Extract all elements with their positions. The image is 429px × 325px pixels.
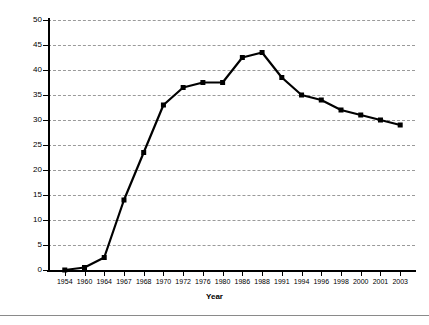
x-axis-tick-mark: [203, 271, 204, 276]
data-point-marker: [240, 55, 245, 60]
y-axis-tick-mark: [43, 70, 49, 71]
y-axis-tick-label: 50: [20, 16, 42, 24]
y-axis-tick-label: 10: [20, 216, 42, 224]
y-axis-tick-mark: [43, 270, 49, 271]
data-series-line: [48, 20, 415, 270]
y-axis-tick-label: 5: [20, 241, 42, 249]
figure-bottom-rule: [0, 315, 429, 316]
x-axis-tick-mark: [183, 271, 184, 276]
x-axis-tick-mark: [144, 271, 145, 276]
data-point-marker: [181, 85, 186, 90]
y-axis-tick-mark: [43, 220, 49, 221]
data-point-marker: [121, 198, 126, 203]
y-axis-tick-label: 40: [20, 66, 42, 74]
y-axis-tick-label: 25: [20, 141, 42, 149]
x-axis-tick-mark: [282, 271, 283, 276]
x-axis-tick-mark: [163, 271, 164, 276]
data-point-marker: [220, 80, 225, 85]
data-point-marker: [339, 108, 344, 113]
y-axis-tick-label: 30: [20, 116, 42, 124]
data-point-marker: [299, 93, 304, 98]
y-axis-tick-mark: [43, 45, 49, 46]
y-axis-tick-mark: [43, 145, 49, 146]
y-axis-tick-mark: [43, 95, 49, 96]
x-axis-tick-mark: [262, 271, 263, 276]
x-axis-tick-mark: [124, 271, 125, 276]
x-axis-tick-mark: [223, 271, 224, 276]
plot-area: [48, 20, 415, 270]
data-point-marker: [200, 80, 205, 85]
y-axis-tick-mark: [43, 245, 49, 246]
y-axis-tick-mark: [43, 120, 49, 121]
y-axis-tick-mark: [43, 20, 49, 21]
x-axis-tick-mark: [104, 271, 105, 276]
y-axis-tick-mark: [43, 170, 49, 171]
x-axis-tick-mark: [361, 271, 362, 276]
x-axis-tick-mark: [380, 271, 381, 276]
series-line: [65, 53, 400, 271]
y-axis-tick-mark: [43, 195, 49, 196]
chart-figure: 05101520253035404550 1954196019641967196…: [0, 0, 429, 325]
y-axis-tick-label: 35: [20, 91, 42, 99]
x-axis-tick-mark: [400, 271, 401, 276]
x-axis-tick-mark: [242, 271, 243, 276]
x-axis-tick-label: 2003: [387, 278, 413, 286]
x-axis-tick-mark: [341, 271, 342, 276]
data-point-marker: [398, 123, 403, 128]
data-point-marker: [358, 113, 363, 118]
y-axis-tick-label: 0: [20, 266, 42, 274]
data-point-marker: [378, 118, 383, 123]
x-axis-title: Year: [0, 292, 429, 301]
data-point-marker: [102, 255, 107, 260]
data-point-marker: [319, 98, 324, 103]
x-axis-tick-mark: [65, 271, 66, 276]
y-axis-tick-label: 45: [20, 41, 42, 49]
data-point-marker: [161, 103, 166, 108]
x-axis-tick-mark: [321, 271, 322, 276]
data-point-marker: [279, 75, 284, 80]
x-axis-tick-mark: [85, 271, 86, 276]
data-point-marker: [260, 50, 265, 55]
y-axis-tick-label: 20: [20, 166, 42, 174]
x-axis-tick-mark: [302, 271, 303, 276]
data-point-marker: [141, 150, 146, 155]
y-axis-tick-label: 15: [20, 191, 42, 199]
